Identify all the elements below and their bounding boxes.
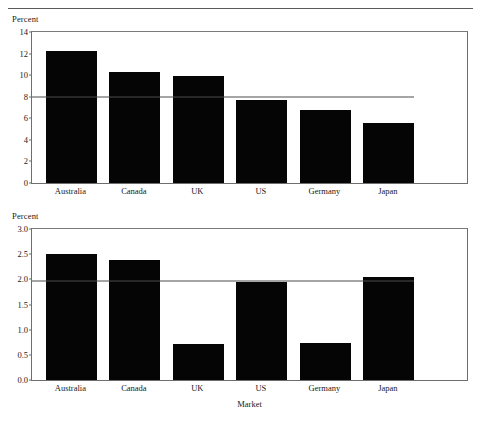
reference-line-top	[32, 97, 414, 98]
y-tick-label: 14	[20, 28, 29, 37]
y-tick-mark	[29, 304, 32, 305]
x-axis-labels-bottom: AustraliaCanadaUKUSGermanyJapan	[31, 384, 468, 398]
y-tick-label: 0	[24, 179, 28, 188]
y-tick-label: 1.0	[17, 325, 28, 334]
bar	[363, 123, 414, 183]
y-tick-label: 4	[24, 136, 28, 145]
y-tick-mark	[29, 183, 32, 184]
x-tick-label: US	[255, 187, 266, 196]
y-tick-mark	[29, 96, 32, 97]
plot-area-bottom: 0.00.51.01.52.02.53.0	[31, 228, 468, 381]
y-axis-title-top: Percent	[12, 14, 39, 24]
chart-panel-top: Percent 02468101214 AustraliaCanadaUKUSG…	[0, 14, 481, 206]
bar	[236, 100, 287, 183]
bar	[109, 72, 160, 183]
bar	[236, 282, 287, 380]
x-tick-label: Canada	[121, 384, 147, 393]
bar	[363, 277, 414, 380]
bar	[109, 260, 160, 380]
figure-rule-top	[8, 8, 473, 9]
y-tick-mark	[29, 229, 32, 230]
y-tick-mark	[29, 161, 32, 162]
x-tick-label: Australia	[55, 187, 86, 196]
y-axis-title-bottom: Percent	[12, 211, 39, 221]
x-tick-label: Japan	[378, 187, 397, 196]
bar	[173, 76, 224, 183]
y-tick-mark	[29, 354, 32, 355]
y-tick-label: 6	[24, 114, 28, 123]
y-tick-label: 3.0	[17, 225, 28, 234]
bar	[173, 344, 224, 380]
y-tick-label: 1.5	[17, 300, 28, 309]
y-tick-label: 2.5	[17, 250, 28, 259]
bar-group-top	[32, 32, 467, 183]
y-tick-mark	[29, 380, 32, 381]
y-tick-mark	[29, 75, 32, 76]
bar	[300, 110, 351, 183]
x-tick-label: Japan	[378, 384, 397, 393]
y-tick-mark	[29, 53, 32, 54]
x-tick-label: Germany	[309, 187, 341, 196]
figure: Percent 02468101214 AustraliaCanadaUKUSG…	[0, 0, 481, 432]
y-tick-label: 0.5	[17, 351, 28, 360]
y-tick-label: 0.0	[17, 376, 28, 385]
y-tick-mark	[29, 118, 32, 119]
y-tick-mark	[29, 32, 32, 33]
y-tick-label: 2	[24, 157, 28, 166]
x-tick-label: Australia	[55, 384, 86, 393]
reference-line-bottom	[32, 280, 414, 281]
y-tick-label: 10	[20, 71, 29, 80]
x-axis-title: Market	[31, 399, 468, 409]
x-tick-label: UK	[191, 187, 203, 196]
bar	[300, 343, 351, 380]
y-tick-label: 8	[24, 92, 28, 101]
chart-panel-bottom: Percent 0.00.51.01.52.02.53.0 AustraliaC…	[0, 211, 481, 411]
x-axis-labels-top: AustraliaCanadaUKUSGermanyJapan	[31, 187, 468, 201]
y-tick-mark	[29, 254, 32, 255]
bar	[46, 51, 97, 183]
y-tick-mark	[29, 139, 32, 140]
y-tick-label: 12	[20, 49, 29, 58]
x-tick-label: Germany	[309, 384, 341, 393]
y-tick-mark	[29, 279, 32, 280]
x-tick-label: US	[255, 384, 266, 393]
x-tick-label: UK	[191, 384, 203, 393]
bar	[46, 254, 97, 380]
y-tick-label: 2.0	[17, 275, 28, 284]
y-tick-mark	[29, 329, 32, 330]
x-tick-label: Canada	[121, 187, 147, 196]
plot-area-top: 02468101214	[31, 31, 468, 184]
bar-group-bottom	[32, 229, 467, 380]
